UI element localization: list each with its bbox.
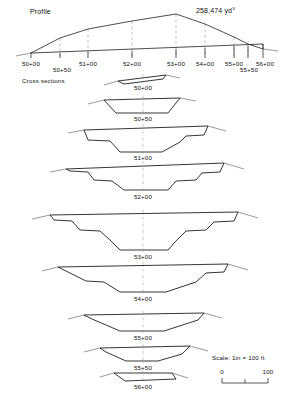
cross-section-label-5550: 55+50 [134, 364, 153, 371]
scale-text: Scale: 1in = 100 ft [212, 354, 265, 361]
profile-ground-tail-right [263, 49, 278, 51]
cross-sections-heading: Cross sections [22, 77, 65, 84]
cross-section-5400: 54+00 [42, 262, 248, 302]
station-label-5600: 56+00 [256, 60, 275, 67]
cross-section-label-5000: 50+00 [134, 84, 153, 91]
volume-annotation: 258,474 yd3 [196, 6, 235, 15]
station-label-5300: 53+00 [167, 60, 186, 67]
station-label-5200: 52+00 [123, 60, 142, 67]
station-label-5100: 51+00 [79, 60, 98, 67]
scale-bar-block: Scale: 1in = 100 ft 0 100 [212, 354, 274, 383]
cross-section-5000: 50+00 [104, 74, 180, 91]
earthwork-drawing-sheet: Profile 258,474 yd3 50+00 50+50 51+00 52… [0, 0, 289, 396]
cross-section-5050: 50+50 [88, 96, 196, 122]
profile-station-labels: 50+00 50+50 51+00 52+00 53+00 54+00 55+0… [22, 60, 275, 73]
cross-section-label-5100: 51+00 [134, 154, 153, 161]
profile-title: Profile [30, 8, 51, 15]
station-label-5400: 54+00 [196, 60, 215, 67]
cross-section-label-5400: 54+00 [134, 295, 153, 302]
profile-station-gridlines [60, 14, 248, 56]
scale-bar-end-label: 100 [263, 368, 274, 375]
cross-section-label-5200: 52+00 [134, 193, 153, 200]
scale-bar-rule [222, 378, 268, 383]
cross-section-label-5050: 50+50 [134, 115, 153, 122]
cross-section-label-5600: 56+00 [134, 383, 153, 390]
profile-upper-curve [31, 14, 263, 53]
cross-section-5300: 53+00 [32, 210, 258, 260]
cross-section-5200: 52+00 [50, 161, 244, 200]
scale-bar-start-label: 0 [220, 368, 224, 375]
drawing-canvas: Profile 258,474 yd3 50+00 50+50 51+00 52… [0, 0, 289, 396]
profile-base-line [31, 44, 263, 53]
cross-section-5500: 55+00 [68, 311, 222, 341]
cross-section-5550: 55+50 [84, 344, 208, 371]
profile-block: Profile 258,474 yd3 50+00 50+50 51+00 52… [16, 6, 278, 84]
cross-section-5100: 51+00 [68, 124, 226, 161]
profile-axis-ticks [31, 44, 263, 58]
cross-section-label-5500: 55+00 [134, 334, 153, 341]
cross-section-5600: 56+00 [100, 371, 188, 390]
cross-section-label-5300: 53+00 [134, 253, 153, 260]
station-label-5050: 50+50 [53, 66, 72, 73]
station-label-5000: 50+00 [22, 60, 41, 67]
profile-ground-tail-left [16, 53, 31, 56]
station-label-5550: 55+50 [240, 66, 259, 73]
